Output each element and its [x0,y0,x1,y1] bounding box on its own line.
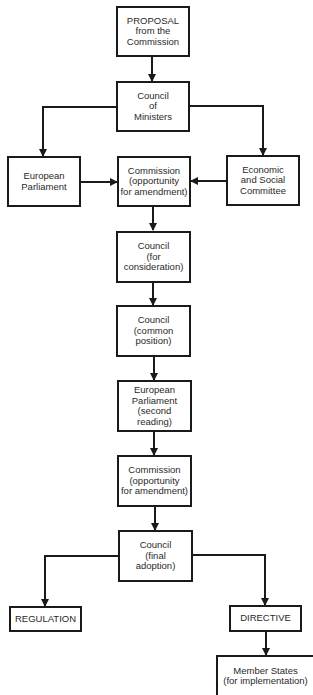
node-council-of-ministers: Council of Ministers [116,81,190,132]
node-label: (for implementation) [223,676,307,687]
node-label: REGULATION [15,614,76,625]
node-commission-amendment-1: Commission (opportunity for amendment) [117,156,191,207]
node-label: position) [136,336,172,347]
node-european-parliament: European Parliament [7,156,81,207]
node-label: consideration) [124,262,184,273]
node-proposal: PROPOSAL from the Commission [116,6,190,57]
node-ep-second-reading: European Parliament (second reading) [117,380,192,432]
node-label: reading) [137,417,172,428]
node-label: adoption) [136,561,176,572]
node-label: for amendment) [120,187,187,198]
node-member-states: Member States (for implementation) [216,655,313,695]
node-regulation: REGULATION [9,606,82,632]
node-label: Committee [240,186,286,197]
node-council-common-position: Council (common position) [116,305,191,357]
node-label: European [134,385,175,396]
node-label: Parliament [21,182,66,193]
node-label: (second [138,406,172,417]
node-economic-social-committee: Economic and Social Committee [226,155,300,206]
node-label: for amendment) [121,486,188,497]
node-label: Commission [127,37,179,48]
node-label: Ministers [134,112,172,123]
node-label: DIRECTIVE [240,613,291,624]
flowchart-canvas: PROPOSAL from the Commission Council of … [0,0,313,695]
node-council-final-adoption: Council (final adoption) [118,530,193,582]
node-commission-amendment-2: Commission (opportunity for amendment) [117,455,192,507]
node-label: European [23,171,64,182]
node-council-consideration: Council (for consideration) [116,231,191,283]
node-directive: DIRECTIVE [229,605,302,632]
